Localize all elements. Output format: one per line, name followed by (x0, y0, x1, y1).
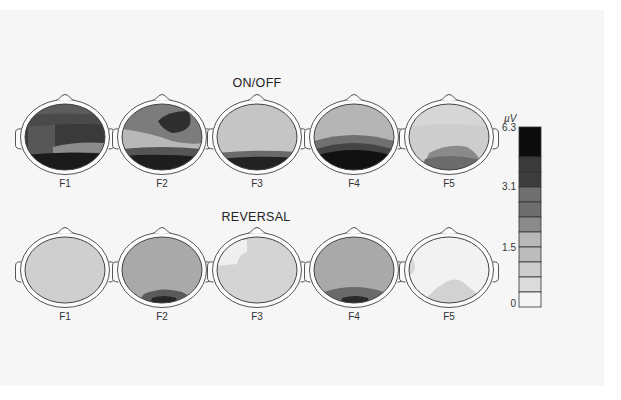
head-label-f2: F2 (156, 178, 168, 189)
head-label-f1: F1 (59, 311, 71, 322)
head-map-f2 (113, 95, 212, 178)
colorbar-segment (519, 262, 541, 277)
colorbar-segment (519, 202, 541, 217)
head-map-f5 (400, 228, 499, 311)
colorbar-scale (519, 127, 541, 307)
colorbar-segment (519, 172, 541, 187)
head-map-f3 (208, 228, 307, 308)
colorbar-segment (519, 157, 541, 172)
colorbar-segment (519, 292, 541, 307)
head-label-f3: F3 (251, 178, 263, 189)
head-map-f5 (400, 95, 499, 178)
colorbar-tick-label: 1.5 (486, 242, 516, 253)
topographic-map-figure (0, 0, 621, 400)
colorbar-tick-label: 6.3 (486, 122, 516, 133)
head-map-f2 (113, 228, 212, 311)
colorbar-segment (519, 232, 541, 247)
colorbar-tick-label: 0 (486, 298, 516, 309)
head-label-f3: F3 (251, 311, 263, 322)
colorbar-segment (519, 247, 541, 262)
colorbar-segment (519, 187, 541, 202)
section-title-on-off: ON/OFF (232, 76, 281, 90)
head-label-f5: F5 (443, 311, 455, 322)
head-map-f1 (16, 95, 115, 178)
head-label-f5: F5 (443, 178, 455, 189)
head-label-f2: F2 (156, 311, 168, 322)
head-label-f4: F4 (348, 311, 360, 322)
head-maps-canvas (0, 0, 621, 400)
head-map-f4 (305, 95, 404, 178)
head-label-f4: F4 (348, 178, 360, 189)
head-map-f3 (208, 95, 307, 178)
colorbar-segment (519, 277, 541, 292)
section-title-reversal: REVERSAL (221, 210, 290, 224)
head-map-f4 (305, 228, 404, 311)
head-label-f1: F1 (59, 178, 71, 189)
colorbar-segment (519, 217, 541, 232)
colorbar-tick-label: 3.1 (486, 181, 516, 192)
colorbar-segment (519, 127, 541, 157)
head-map-f1 (16, 228, 115, 308)
